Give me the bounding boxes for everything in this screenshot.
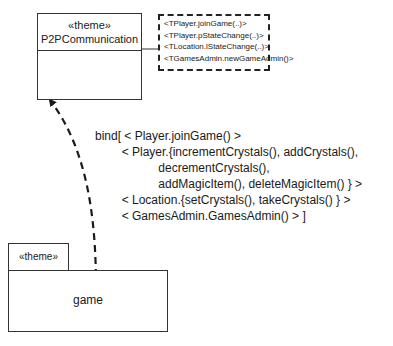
bind-line: < Player.{incrementCrystals(), addCrysta… <box>95 144 362 160</box>
theme-header: «theme» P2PCommunication <box>38 14 141 51</box>
template-param: <TPlayer.pStateChange(..)> <box>164 30 268 42</box>
theme-name: game <box>9 293 167 307</box>
bind-line: addMagicItem(), deleteMagicItem() } > <box>95 176 362 192</box>
theme-game[interactable]: game <box>8 270 168 332</box>
theme-tab: «theme» <box>8 243 69 271</box>
bind-line: < Location.{setCrystals(), takeCrystals(… <box>95 192 362 208</box>
bind-line: decrementCrystals(), <box>95 160 362 176</box>
theme-stereotype: «theme» <box>9 244 68 264</box>
theme-name: P2PCommunication <box>38 32 141 46</box>
bind-expression: bind[ < Player.joinGame() > < Player.{in… <box>95 128 362 224</box>
template-parameters-box: <TPlayer.joinGame(..)> <TPlayer.pStateCh… <box>158 14 270 71</box>
theme-p2pcommunication[interactable]: «theme» P2PCommunication <box>37 13 142 100</box>
template-param: <TLocation.lStateChange(..)> <box>164 41 268 53</box>
bind-line: < GamesAdmin.GamesAdmin() > ] <box>95 208 362 224</box>
bind-line: bind[ < Player.joinGame() > <box>95 128 362 144</box>
template-param: <TGamesAdmin.newGameAdmin()> <box>164 53 268 65</box>
theme-stereotype: «theme» <box>38 18 141 32</box>
template-param: <TPlayer.joinGame(..)> <box>164 18 268 30</box>
